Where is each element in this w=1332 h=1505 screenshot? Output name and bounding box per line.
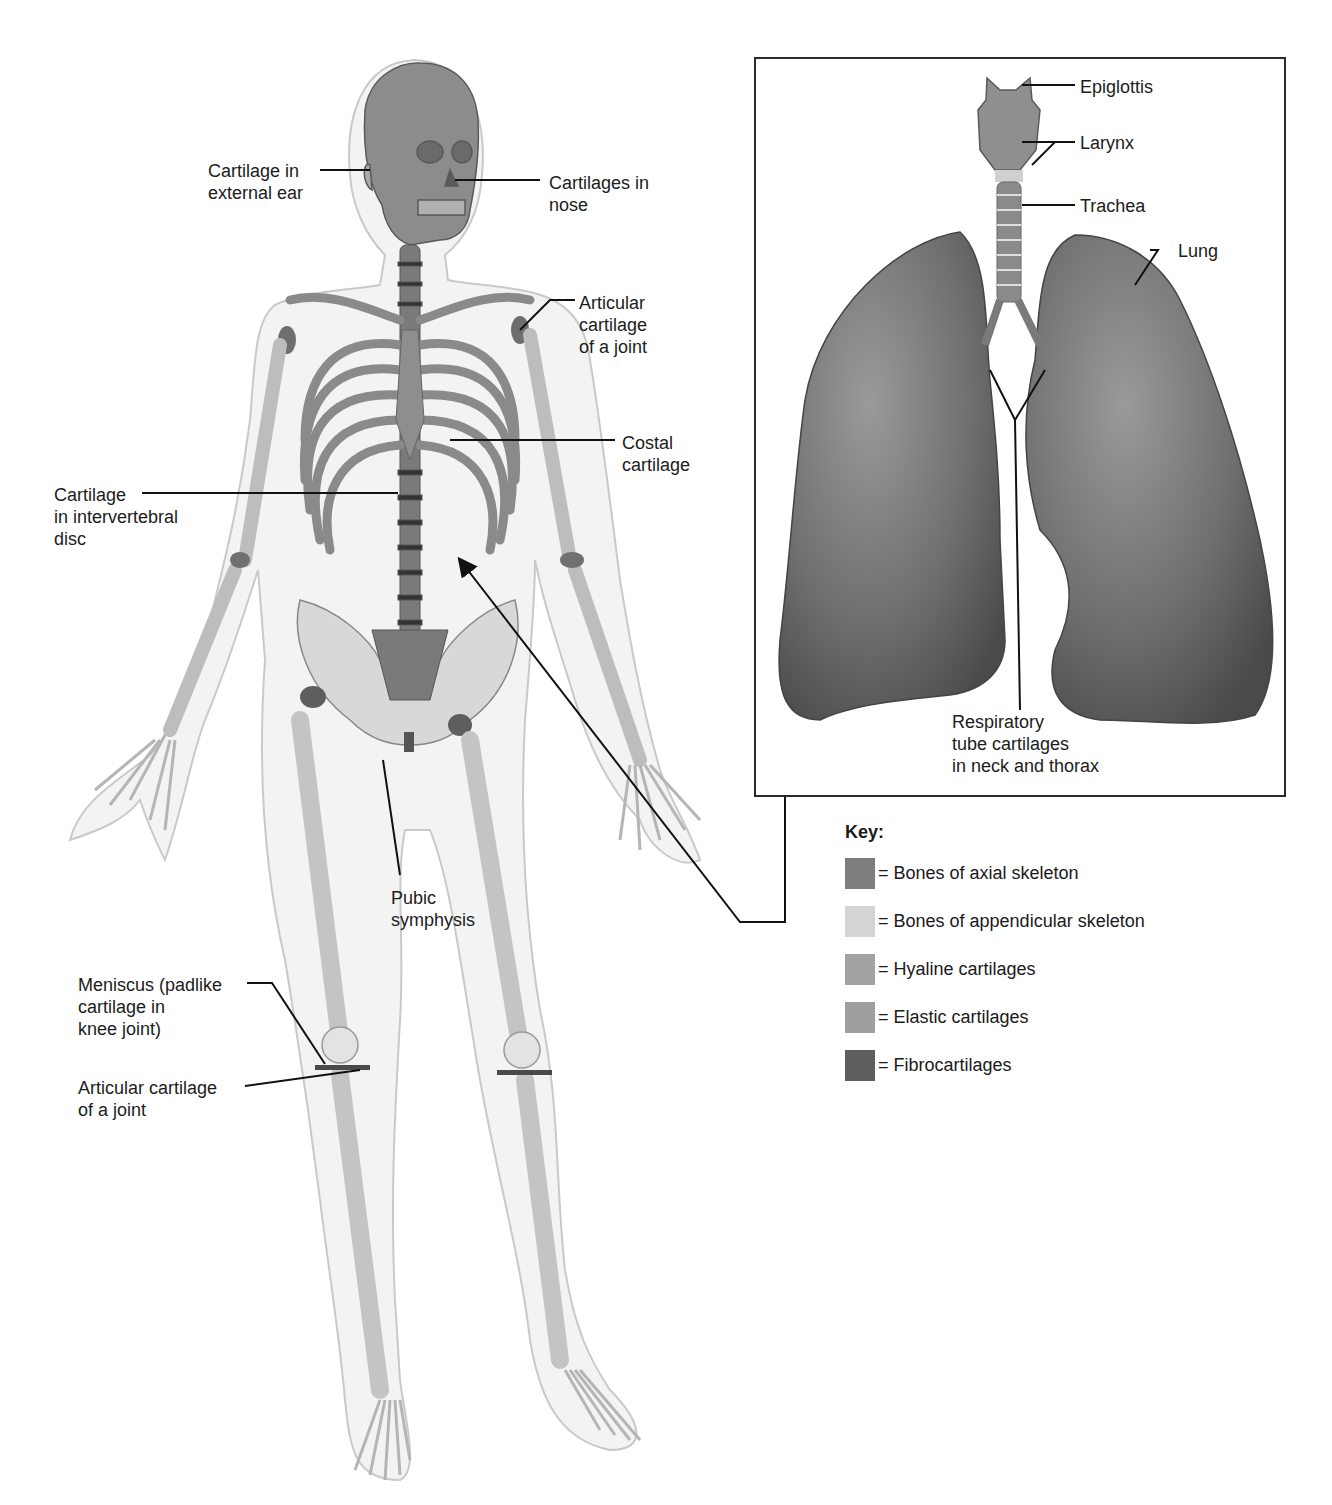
- legend-title: Key:: [845, 822, 1145, 843]
- cartilage-diagram: Cartilage in external ear Cartilages in …: [0, 0, 1332, 1505]
- legend-swatch-hyaline: [845, 954, 875, 985]
- legend-item-axial: = Bones of axial skeleton: [845, 857, 1145, 889]
- label-cartilage-external-ear: Cartilage in external ear: [208, 160, 303, 204]
- label-cartilages-nose: Cartilages in nose: [549, 172, 649, 216]
- label-meniscus: Meniscus (padlike cartilage in knee join…: [78, 974, 222, 1040]
- label-costal-cartilage: Costal cartilage: [622, 432, 690, 476]
- legend: Key: = Bones of axial skeleton = Bones o…: [845, 822, 1145, 1097]
- legend-item-elastic: = Elastic cartilages: [845, 1001, 1145, 1033]
- legend-label-hyaline: = Hyaline cartilages: [878, 959, 1036, 980]
- label-articular-cartilage-knee: Articular cartilage of a joint: [78, 1077, 217, 1121]
- respiratory-inset-frame: [754, 57, 1286, 797]
- label-larynx: Larynx: [1080, 132, 1134, 154]
- legend-label-fibrocartilage: = Fibrocartilages: [878, 1055, 1012, 1076]
- legend-label-elastic: = Elastic cartilages: [878, 1007, 1029, 1028]
- legend-swatch-appendicular: [845, 906, 875, 937]
- legend-item-hyaline: = Hyaline cartilages: [845, 953, 1145, 985]
- legend-swatch-elastic: [845, 1002, 875, 1033]
- label-articular-cartilage-shoulder: Articular cartilage of a joint: [579, 292, 647, 358]
- legend-swatch-axial: [845, 858, 875, 889]
- label-epiglottis: Epiglottis: [1080, 76, 1153, 98]
- legend-item-appendicular: = Bones of appendicular skeleton: [845, 905, 1145, 937]
- label-respiratory-tube-cartilages: Respiratory tube cartilages in neck and …: [952, 711, 1099, 777]
- label-pubic-symphysis: Pubic symphysis: [391, 887, 475, 931]
- legend-swatch-fibrocartilage: [845, 1050, 875, 1081]
- label-lung: Lung: [1178, 240, 1218, 262]
- legend-item-fibrocartilage: = Fibrocartilages: [845, 1049, 1145, 1081]
- legend-label-axial: = Bones of axial skeleton: [878, 863, 1079, 884]
- legend-label-appendicular: = Bones of appendicular skeleton: [878, 911, 1145, 932]
- label-trachea: Trachea: [1080, 195, 1145, 217]
- label-intervertebral-disc: Cartilage in intervertebral disc: [54, 484, 178, 550]
